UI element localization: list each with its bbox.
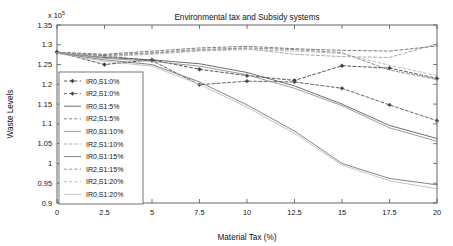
legend-label[interactable]: IR0,S1:10% [86,128,123,135]
y-tick-label: 1.25 [38,60,52,69]
series-line [57,46,437,54]
y-tick-label: 1.3 [42,40,52,49]
legend-label[interactable]: IR0,S1:15% [86,153,123,160]
y-tick-label: 0.95 [38,179,52,188]
x-tick-label: 5 [150,208,154,217]
x-tick-label: 17.5 [382,208,396,217]
legend-label[interactable]: IR0,S1:20% [86,191,123,198]
x-tick-label: 15 [338,208,346,217]
line-chart: 02.557.51012.51517.520 0.90.9511.051.11.… [0,0,453,246]
y-axis-label: Waste Levels [6,90,15,139]
legend-label[interactable]: IR0,S1:0% [86,78,119,85]
y-tick-label: 1.05 [38,139,52,148]
x-axis-label: Material Tax (%) [218,233,277,242]
x-tick-labels: 02.557.51012.51517.520 [55,208,441,217]
y-tick-label: 1 [48,159,52,168]
x-tick-label: 0 [55,208,59,217]
series-marker [340,86,344,90]
series-marker [388,103,392,107]
x-tick-label: 12.5 [287,208,301,217]
chart-figure: 02.557.51012.51517.520 0.90.9511.051.11.… [0,0,453,246]
legend-label[interactable]: IR2,S1:15% [86,166,123,173]
y-tick-label: 1.35 [38,21,52,30]
legend-label[interactable]: IR2,S1:0% [86,90,119,97]
y-tick-label: 0.9 [42,199,52,208]
chart-title: Environmental tax and Subsidy systems [174,13,319,22]
series-marker [245,79,249,83]
x-tick-label: 20 [433,208,441,217]
series-marker [198,67,202,71]
legend-label[interactable]: IR0,S1:5% [86,103,119,110]
x-tick-label: 2.5 [99,208,109,217]
legend-label[interactable]: IR2,S1:10% [86,141,123,148]
y-exponent-label: x 105 [48,10,65,21]
series-marker [103,63,107,67]
y-tick-label: 1.2 [42,80,52,89]
x-tick-label: 7.5 [194,208,204,217]
chart-legend[interactable]: IR0,S1:0%IR2,S1:0%IR0,S1:5%IR2,S1:5%IR0,… [59,72,143,204]
y-tick-label: 1.15 [38,100,52,109]
y-tick-labels: 0.90.9511.051.11.151.21.251.31.35 [38,21,52,208]
x-tick-label: 10 [243,208,251,217]
legend-label[interactable]: IR2,S1:5% [86,115,119,122]
series-marker [340,64,344,68]
y-tick-label: 1.1 [42,119,52,128]
legend-label[interactable]: IR2,S1:20% [86,178,123,185]
